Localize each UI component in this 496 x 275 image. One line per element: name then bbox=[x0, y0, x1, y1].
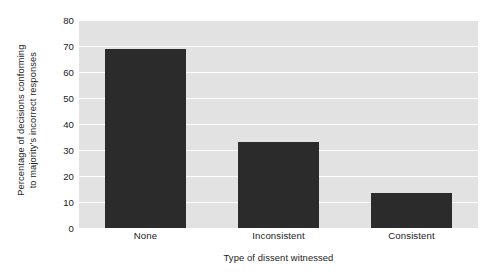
gridline bbox=[79, 228, 478, 229]
bar-consistent bbox=[371, 193, 452, 228]
x-axis-title: Type of dissent witnessed bbox=[79, 252, 478, 263]
y-axis-tick-label: 30 bbox=[52, 145, 74, 156]
y-axis-tick-label: 0 bbox=[52, 223, 74, 234]
y-axis-title-line1: Percentage of decisions conforming bbox=[16, 44, 28, 195]
x-axis-tick-label: None bbox=[134, 230, 157, 241]
y-axis-tick-label: 40 bbox=[52, 119, 74, 130]
y-axis-title-text: Percentage of decisions conforming to ma… bbox=[16, 44, 40, 195]
y-axis-tick-label: 10 bbox=[52, 197, 74, 208]
bar-chart-figure: Percentage of decisions conforming to ma… bbox=[0, 0, 496, 275]
x-axis-tick-label: Consistent bbox=[388, 230, 434, 241]
bar-inconsistent bbox=[238, 142, 319, 228]
plot-area bbox=[79, 20, 478, 228]
y-axis-tick-label: 20 bbox=[52, 171, 74, 182]
y-axis-tick-label: 50 bbox=[52, 93, 74, 104]
y-axis-title-line2: to majority's incorrect responses bbox=[28, 44, 40, 195]
y-axis-tick-label: 70 bbox=[52, 41, 74, 52]
y-axis-title: Percentage of decisions conforming to ma… bbox=[0, 0, 56, 240]
x-axis-tick-labels: NoneInconsistentConsistent bbox=[79, 230, 478, 246]
x-axis-tick-label: Inconsistent bbox=[252, 230, 304, 241]
y-axis-tick-label: 60 bbox=[52, 67, 74, 78]
y-axis-tick-labels: 01020304050607080 bbox=[52, 0, 74, 275]
y-axis-tick-label: 80 bbox=[52, 15, 74, 26]
bar-none bbox=[105, 49, 186, 228]
gridline bbox=[79, 46, 478, 47]
gridline bbox=[79, 20, 478, 21]
